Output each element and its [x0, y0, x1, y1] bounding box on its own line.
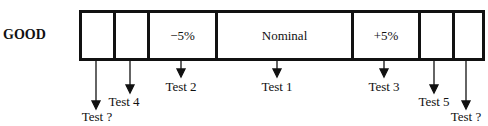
test-label-3: Test 3	[368, 79, 399, 95]
test-label-1: Test 1	[261, 79, 292, 95]
test-arrows	[0, 0, 488, 126]
test-label-far-high: Test ?	[451, 109, 482, 125]
test-label-far-low: Test ?	[82, 109, 113, 125]
test-label-2: Test 2	[165, 79, 196, 95]
test-label-5: Test 5	[418, 94, 449, 110]
test-label-4: Test 4	[108, 94, 139, 110]
